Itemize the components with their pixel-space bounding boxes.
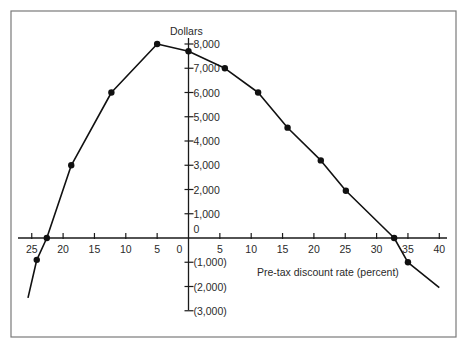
x-tick-label: 5 (217, 243, 223, 255)
y-tick-label: 3,000 (194, 159, 220, 171)
y-tick-label: 2,000 (194, 184, 220, 196)
x-tick-label: 25 (339, 243, 351, 255)
data-point (222, 65, 228, 71)
data-point (255, 89, 261, 95)
y-tick-label: 4,000 (194, 135, 220, 147)
data-points (34, 41, 412, 266)
x-tick-label: 0 (177, 243, 183, 255)
x-tick-label: 5 (154, 243, 160, 255)
y-tick-label: (1,000) (194, 256, 227, 268)
data-point (405, 259, 411, 265)
x-axis-label: Pre-tax discount rate (percent) (257, 266, 399, 278)
data-point (343, 188, 349, 194)
x-tick-label: 15 (277, 243, 289, 255)
data-point (284, 124, 290, 130)
x-tick-label: 20 (57, 243, 69, 255)
x-tick-label: 10 (120, 243, 132, 255)
data-point (391, 235, 397, 241)
x-tick-label: 15 (89, 243, 101, 255)
npv-chart: 25201510505101520253035408,0007,0006,000… (0, 0, 465, 350)
x-tick-label: 30 (371, 243, 383, 255)
x-tick-label: 20 (308, 243, 320, 255)
x-tick-label: 35 (402, 243, 414, 255)
data-point (108, 89, 114, 95)
y-axis-label: Dollars (170, 25, 203, 37)
npv-line (28, 44, 439, 298)
data-point (68, 162, 74, 168)
y-tick-label: 0 (194, 223, 200, 235)
data-point (185, 48, 191, 54)
x-tick-label: 40 (433, 243, 445, 255)
data-point (44, 235, 50, 241)
y-tick-label: 6,000 (194, 87, 220, 99)
y-tick-label: (3,000) (194, 305, 227, 317)
x-tick-label: 10 (245, 243, 257, 255)
y-tick-label: 5,000 (194, 111, 220, 123)
data-point (154, 41, 160, 47)
chart-frame (11, 11, 456, 337)
y-tick-label: (2,000) (194, 281, 227, 293)
x-tick-label: 25 (26, 243, 38, 255)
data-point (34, 257, 40, 263)
data-point (318, 157, 324, 163)
y-tick-label: 1,000 (194, 208, 220, 220)
y-tick-label: 8,000 (194, 38, 220, 50)
